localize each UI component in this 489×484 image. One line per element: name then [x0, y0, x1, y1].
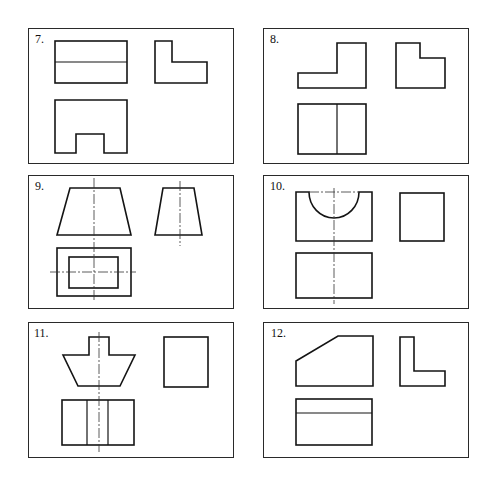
panel-number: 10.: [270, 179, 285, 193]
panel-8: 8.: [264, 29, 469, 164]
panel-number: 9.: [35, 179, 44, 193]
panel-number: 7.: [35, 32, 44, 46]
drawing-sheet: 7. 8. 9. 10.: [0, 0, 489, 484]
panel-11: 11.: [29, 323, 234, 458]
panel-10: 10.: [264, 176, 469, 309]
panel-number: 11.: [34, 326, 49, 340]
panel-9: 9.: [29, 176, 234, 309]
panel-frame: [29, 323, 234, 458]
panel-frame: [264, 176, 469, 309]
panel-frame: [29, 29, 234, 164]
panel-number: 12.: [271, 326, 286, 340]
panel-number: 8.: [270, 32, 279, 46]
panel-7: 7.: [29, 29, 234, 164]
panel-12: 12.: [264, 323, 469, 458]
panel-frame: [264, 323, 469, 458]
